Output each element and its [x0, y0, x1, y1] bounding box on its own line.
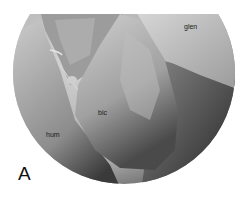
label-biceps: bic — [98, 109, 107, 116]
arthroscopic-field — [13, 14, 235, 184]
label-humerus: hum — [46, 131, 60, 138]
panel-letter: A — [18, 163, 31, 185]
arthroscopic-image — [13, 14, 235, 184]
label-glenoid: glen — [184, 23, 197, 30]
